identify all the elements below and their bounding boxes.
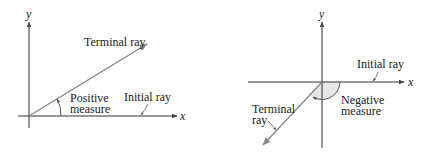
initial-ray-pointer [373, 72, 378, 81]
measure-label-line2: measure [70, 102, 110, 116]
initial-ray-label: Initial ray [357, 57, 404, 71]
measure-label-line2: measure [341, 104, 381, 118]
initial-ray-pointer [141, 104, 148, 115]
terminal-ray-pointer [268, 121, 276, 130]
terminal-ray-label: Terminal ray [84, 35, 145, 49]
terminal-ray-label-line2: ray [252, 113, 267, 127]
y-axis-label: y [318, 7, 325, 21]
positive-measure-arc [57, 99, 61, 116]
positive-angle-diagram: y x Terminal ray Positive measure Initia… [18, 7, 186, 128]
negative-angle-diagram: y x Initial ray Negative measure Termina… [248, 7, 414, 148]
initial-ray-label: Initial ray [124, 90, 171, 104]
angle-diagrams: y x Terminal ray Positive measure Initia… [0, 0, 426, 157]
y-axis-label: y [25, 7, 32, 21]
x-axis-label: x [407, 75, 414, 89]
x-axis-label: x [179, 109, 186, 123]
